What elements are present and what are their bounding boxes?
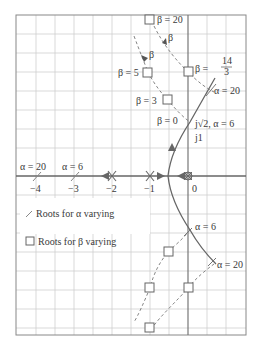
label-beta-14-3: β = (195, 63, 209, 74)
label-alpha-20-lower: α = 20 (217, 259, 243, 270)
tick-label: 0 (192, 183, 197, 194)
label-alpha-6-lower: α = 6 (195, 221, 216, 232)
tick-label: −3 (68, 183, 79, 194)
arrow-down-icon (141, 55, 148, 62)
legend-alpha-label: Roots for α varying (36, 208, 114, 219)
label-beta-5: β = 5 (118, 67, 139, 78)
tick-label: −2 (106, 183, 117, 194)
label-beta-14-3-den: 3 (224, 66, 229, 77)
legend-beta-label: Roots for β varying (38, 236, 116, 247)
label-beta-14-3-num: 14 (222, 55, 232, 66)
alpha-locus-curve (168, 78, 216, 264)
arrow-right-icon (157, 172, 165, 180)
label-alpha-20-axis: α = 20 (20, 161, 46, 172)
label-beta-20: β = 20 (157, 14, 183, 25)
tick-label: −1 (144, 183, 155, 194)
origin-pole-icon (184, 172, 192, 180)
arrow-left-icon (101, 172, 109, 180)
label-j1: j1 (194, 132, 203, 143)
label-jsqrt2-alpha-6: j√2, α = 6 (194, 118, 234, 129)
label-alpha-6-axis: α = 6 (62, 161, 83, 172)
grid (16, 15, 246, 335)
label-beta-arrow: β (168, 32, 173, 43)
legend: Roots for α varying Roots for β varying (20, 198, 150, 247)
label-beta-3: β = 3 (136, 95, 157, 106)
beta-legend-marker-icon (26, 237, 34, 245)
label-beta-arrow: β (149, 49, 154, 60)
root-locus-plot: β = 20 β β β = 5 β = 3 β = 0 β = 14 3 α … (0, 0, 256, 349)
label-alpha-20-upper: α = 20 (214, 85, 240, 96)
tick-label: −4 (30, 183, 41, 194)
label-beta-0: β = 0 (157, 115, 178, 126)
